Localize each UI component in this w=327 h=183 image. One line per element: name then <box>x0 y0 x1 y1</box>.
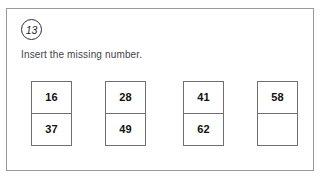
worksheet-question-panel: 13 Insert the missing number. 16 37 28 4… <box>6 8 314 171</box>
question-number-badge: 13 <box>21 19 42 40</box>
domino-3-bottom-value: 62 <box>184 114 223 146</box>
question-instruction-text: Insert the missing number. <box>21 49 142 60</box>
domino-card-4: 58 <box>257 81 298 146</box>
domino-3-top-value: 41 <box>184 82 223 114</box>
domino-card-1: 16 37 <box>31 81 72 146</box>
domino-4-answer-blank[interactable] <box>258 114 297 146</box>
domino-1-bottom-value: 37 <box>32 114 71 146</box>
domino-2-bottom-value: 49 <box>106 114 145 146</box>
domino-sequence: 16 37 28 49 41 62 58 <box>7 81 313 153</box>
domino-card-3: 41 62 <box>183 81 224 146</box>
domino-2-top-value: 28 <box>106 82 145 114</box>
domino-4-top-value: 58 <box>258 82 297 114</box>
domino-card-2: 28 49 <box>105 81 146 146</box>
domino-1-top-value: 16 <box>32 82 71 114</box>
